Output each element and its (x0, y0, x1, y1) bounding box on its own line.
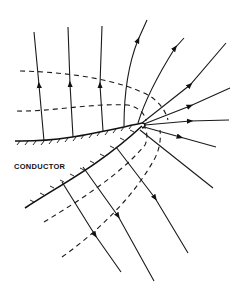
conductor-upper-surface (15, 123, 142, 141)
conductor-label: CONDUCTOR (14, 162, 65, 171)
field-lines-lower (62, 130, 213, 281)
field-line-diagram (0, 0, 238, 288)
conductor-hatching-upper (17, 125, 132, 145)
field-lines-upper (34, 20, 230, 147)
